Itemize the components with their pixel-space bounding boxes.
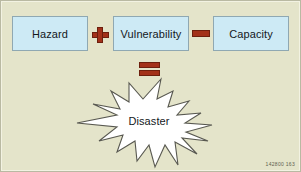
term-box-capacity: Capacity	[213, 16, 289, 51]
equals-operator-icon	[139, 62, 160, 76]
result-starburst: Disaster	[73, 77, 225, 169]
term-box-hazard: Hazard	[12, 16, 88, 51]
result-label-disaster: Disaster	[73, 115, 225, 127]
term-label-hazard: Hazard	[32, 28, 68, 40]
term-label-vulnerability: Vulnerability	[121, 28, 182, 40]
term-label-capacity: Capacity	[229, 28, 273, 40]
equals-top-bar	[139, 62, 160, 68]
plus-operator-icon	[92, 27, 109, 43]
disaster-risk-equation-diagram: Hazard Vulnerability Capacity Disaster 1…	[0, 0, 301, 172]
plus-vertical-bar	[97, 27, 103, 43]
equals-bottom-bar	[139, 70, 160, 76]
image-corner-code: 142800 163	[266, 161, 295, 167]
minus-operator-icon	[192, 30, 210, 37]
term-box-vulnerability: Vulnerability	[113, 16, 189, 51]
